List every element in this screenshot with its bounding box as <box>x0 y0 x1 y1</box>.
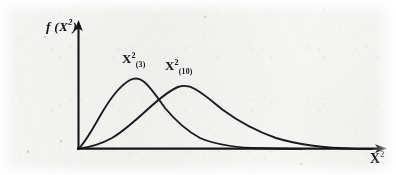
curve-label-chi-square-10: X2(10) <box>165 59 193 76</box>
x-axis-label-superscript: 2 <box>380 149 385 159</box>
curve-label-chi-square-10-base: X <box>165 58 175 73</box>
curve-chi-square-10 <box>79 86 372 149</box>
curve-label-chi-square-3-superscript: 2 <box>132 51 136 60</box>
x-axis-label-base: X <box>370 151 380 166</box>
y-axis-label-suffix: ) <box>73 19 78 34</box>
y-axis-label-prefix: f (X <box>46 19 68 34</box>
y-axis-label: f (X2) <box>46 19 77 33</box>
curve-label-chi-square-3-base: X <box>122 51 132 66</box>
curve-label-chi-square-3-subscript: (3) <box>136 60 146 69</box>
chi-square-distribution-figure: f (X2) X2 X2(3) X2(10) <box>0 0 396 175</box>
curve-label-chi-square-10-superscript: 2 <box>175 58 179 67</box>
curve-label-chi-square-3: X2(3) <box>122 52 146 69</box>
curve-label-chi-square-10-subscript: (10) <box>179 67 193 76</box>
x-axis-label: X2 <box>370 150 385 166</box>
